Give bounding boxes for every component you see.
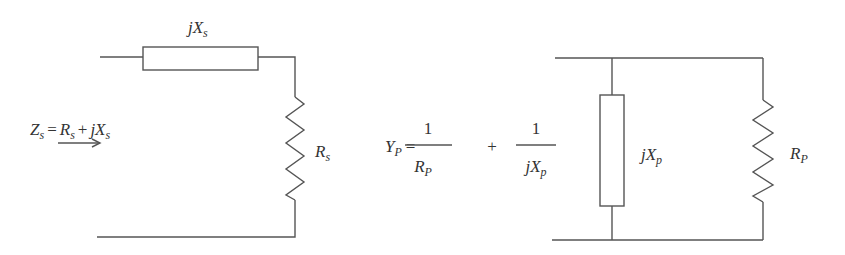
series-resistance-label: Rs bbox=[314, 142, 330, 164]
fraction2-numerator: 1 bbox=[532, 119, 541, 138]
series-reactance-element bbox=[143, 47, 258, 70]
series-circuit: jXs Rs Zs=Rs+jXs bbox=[30, 18, 330, 237]
parallel-resistor-zigzag bbox=[753, 100, 773, 202]
series-wire-bottom bbox=[97, 200, 295, 237]
series-resistor-zigzag bbox=[286, 97, 304, 200]
impedance-equation: Zs=Rs+jXs bbox=[30, 120, 111, 142]
parallel-circuit: jXp RP bbox=[552, 58, 808, 240]
admittance-lhs: YP= bbox=[385, 137, 415, 159]
admittance-equation: YP= 1 RP + 1 jXp bbox=[385, 119, 556, 179]
fraction1-numerator: 1 bbox=[424, 119, 433, 138]
input-arrow-icon bbox=[58, 139, 100, 147]
fraction2-denominator: jXp bbox=[523, 157, 546, 179]
parallel-resistance-label: RP bbox=[789, 144, 808, 166]
parallel-reactance-element bbox=[600, 95, 624, 206]
parallel-reactance-label: jXp bbox=[639, 145, 662, 167]
circuit-diagram: jXs Rs Zs=Rs+jXs YP= 1 RP + 1 jXp jXp RP bbox=[0, 0, 845, 255]
series-wire-right-top bbox=[258, 57, 295, 97]
plus-sign: + bbox=[487, 137, 497, 156]
series-reactance-label: jXs bbox=[186, 18, 208, 40]
fraction1-denominator: RP bbox=[413, 157, 432, 179]
